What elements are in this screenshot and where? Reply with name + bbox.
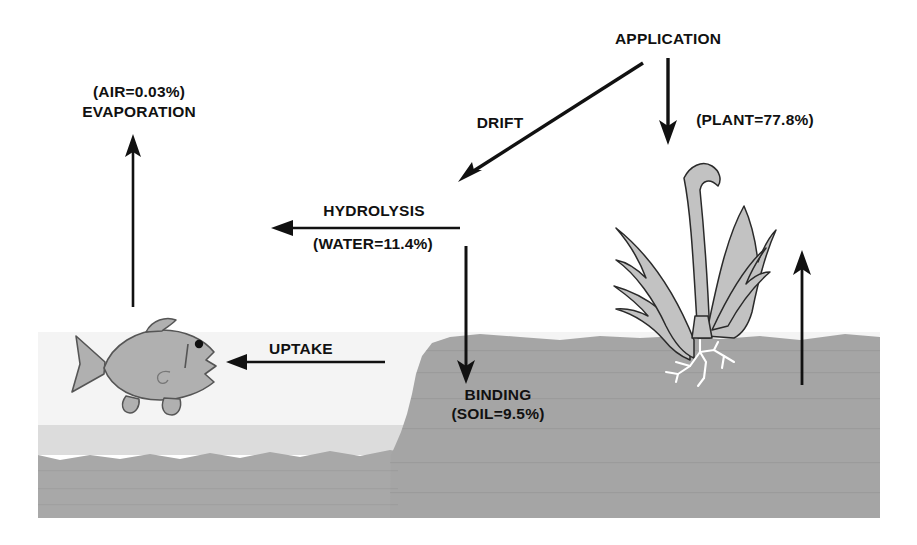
evaporation-arrow — [125, 134, 141, 307]
soil-fraction-label: (SOIL=9.5%) — [451, 405, 544, 423]
application-arrow — [659, 58, 677, 145]
drift-label: DRIFT — [477, 114, 524, 132]
arrow-layer — [0, 0, 917, 545]
hydrolysis-label: HYDROLYSIS — [323, 202, 424, 220]
application-label: APPLICATION — [615, 30, 721, 48]
binding-label: BINDING — [465, 386, 532, 404]
soil-uptake-arrow — [793, 250, 811, 385]
plant-fraction-label: (PLANT=77.8%) — [696, 111, 814, 129]
water-fraction-label: (WATER=11.4%) — [313, 235, 433, 253]
binding-arrow — [457, 246, 475, 384]
evaporation-label: EVAPORATION — [82, 103, 196, 121]
uptake-label: UPTAKE — [269, 340, 333, 358]
hydrolysis-arrow — [271, 220, 460, 236]
air-fraction-label: (AIR=0.03%) — [93, 83, 185, 101]
diagram-canvas: APPLICATION DRIFT (PLANT=77.8%) (AIR=0.0… — [0, 0, 917, 545]
